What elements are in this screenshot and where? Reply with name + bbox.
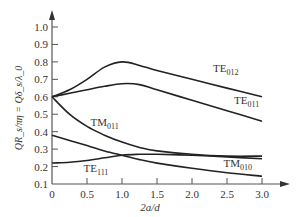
label-tm010: TM010 [224,157,253,172]
y-tick-label: 0.7 [34,73,48,85]
plot-area: 0.10.20.30.40.50.60.70.80.91.000.51.01.5… [0,0,298,217]
y-tick-label: 0.1 [34,178,48,190]
y-tick-label: 0.4 [34,126,48,138]
x-tick-label: 2.5 [220,188,234,200]
x-tick-label: 0 [49,188,55,200]
x-tick-label: 0.5 [80,188,94,200]
x-tick-label: 3.0 [255,188,269,200]
chart: 0.10.20.30.40.50.60.70.80.91.000.51.01.5… [0,0,298,217]
y-tick-label: 0.9 [34,38,48,50]
label-te012: TE012 [213,62,238,77]
x-tick-label: 2.0 [185,188,199,200]
y-tick-label: 0.8 [34,56,48,68]
y-tick-label: 0.2 [34,161,48,173]
curve-te012 [52,62,262,97]
x-tick-label: 1.5 [150,188,164,200]
y-tick-label: 1.0 [34,21,48,33]
label-te011: TE011 [234,94,259,109]
y-axis-label: QR_s/πη = Qδ_s/λ_0 [13,66,24,151]
label-tm011: TM011 [91,116,119,131]
curve-labels: TE012TE011TM011TM010TE111 [84,62,260,176]
x-tick-label: 1.0 [115,188,129,200]
y-tick-label: 0.6 [34,91,48,103]
y-tick-label: 0.3 [34,143,48,155]
y-tick-label: 0.5 [34,108,48,120]
y-axis-arrow-icon [49,10,55,20]
x-axis-label: 2a/d [140,201,160,213]
x-axis-arrow-icon [280,181,290,187]
label-te111: TE111 [84,162,109,177]
curve-tm011 [52,97,262,156]
